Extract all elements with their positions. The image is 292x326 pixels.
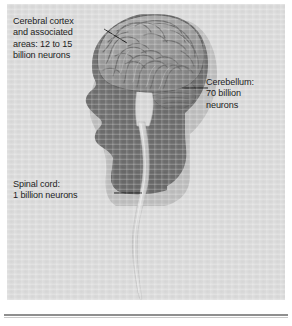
bottom-divider-rule xyxy=(4,314,288,316)
label-cerebral-cortex: Cerebral cortex and associated areas: 12… xyxy=(13,16,121,62)
bottom-divider-rule-shadow xyxy=(4,317,288,318)
label-spinal-cord: Spinal cord: 1 billion neurons xyxy=(13,179,125,202)
figure-root: Cerebral cortex and associated areas: 12… xyxy=(0,0,292,326)
label-cerebellum: Cerebellum: 70 billion neurons xyxy=(206,77,288,111)
